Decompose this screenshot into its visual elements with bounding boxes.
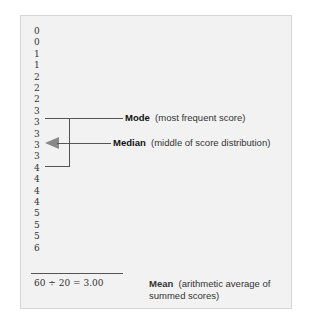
score-item: 5: [34, 220, 40, 231]
score-item: 2: [34, 72, 40, 83]
score-item: 1: [34, 60, 40, 71]
score-item: 4: [34, 197, 40, 208]
score-item: 0: [34, 37, 40, 48]
score-item: 4: [34, 186, 40, 197]
score-item: 3: [34, 129, 40, 140]
score-item: 2: [34, 94, 40, 105]
score-item: 4: [34, 163, 40, 174]
mode-label: Mode (most frequent score): [125, 112, 245, 123]
score-item: 1: [34, 49, 40, 60]
score-item: 5: [34, 231, 40, 242]
score-distribution-panel: 00112223333344445556 Mode (most frequent…: [20, 15, 292, 309]
score-item: 4: [34, 174, 40, 185]
bracket-vertical: [69, 118, 70, 166]
score-item: 6: [34, 243, 40, 254]
sum-divider: [31, 273, 123, 274]
score-item: 3: [34, 140, 40, 151]
mean-label: Mean (arithmetic average of summed score…: [149, 278, 289, 302]
median-label: Median (middle of score distribution): [113, 137, 270, 148]
bracket-bottom: [45, 166, 70, 167]
mean-formula: 60 ÷ 20 = 3.00: [34, 278, 103, 288]
score-item: 3: [34, 106, 40, 117]
score-item: 3: [34, 117, 40, 128]
score-item: 3: [34, 151, 40, 162]
score-item: 5: [34, 208, 40, 219]
score-item: 0: [34, 26, 40, 37]
mode-line: [45, 118, 123, 119]
median-line: [57, 143, 111, 144]
score-item: 2: [34, 83, 40, 94]
